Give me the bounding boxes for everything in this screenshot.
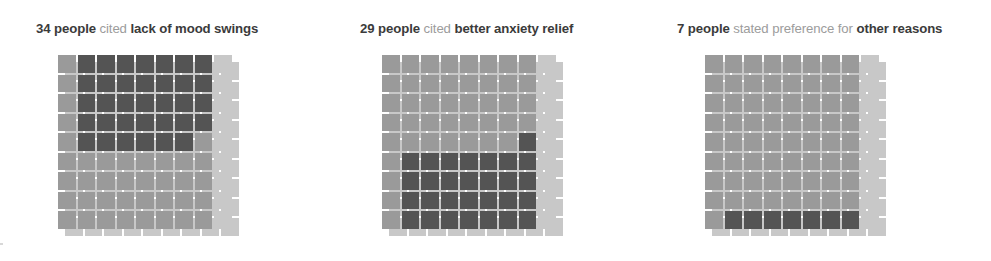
waffle-cell-base xyxy=(764,153,782,171)
waffle-cell-base xyxy=(156,192,174,210)
waffle-cell-base xyxy=(725,192,743,210)
waffle-cell-highlight xyxy=(519,211,537,229)
waffle-cell-base xyxy=(705,133,723,151)
waffle-cell-highlight xyxy=(156,94,174,112)
waffle-chart-figure: 34 people cited lack of mood swings29 pe… xyxy=(0,0,991,261)
waffle-cell-base xyxy=(97,172,115,190)
waffle-cell-highlight xyxy=(744,211,762,229)
waffle-cell-base xyxy=(195,172,213,190)
waffle-cell-highlight xyxy=(499,172,517,190)
waffle-cell-base xyxy=(460,94,478,112)
waffle-cell-base xyxy=(441,133,459,151)
waffle-cell-shadow xyxy=(861,153,879,171)
waffle-cell-shadow xyxy=(214,172,232,190)
waffle-cell-base xyxy=(382,114,400,132)
waffle-cell-base xyxy=(783,55,801,73)
panel-title-mood-swings: 34 people cited lack of mood swings xyxy=(36,21,258,37)
waffle-cell-base xyxy=(744,75,762,93)
waffle-cell-base xyxy=(480,114,498,132)
waffle-cell-highlight xyxy=(480,153,498,171)
panel-title-verb: stated preference for xyxy=(730,21,857,36)
waffle-cell-highlight xyxy=(441,172,459,190)
waffle-cell-base xyxy=(822,94,840,112)
waffle-cell-base xyxy=(195,153,213,171)
figure-edge-marker xyxy=(0,243,3,245)
waffle-cell-base xyxy=(764,133,782,151)
waffle-cell-base xyxy=(744,153,762,171)
waffle-grid-anxiety-relief xyxy=(382,55,556,229)
waffle-cell-base xyxy=(117,172,135,190)
waffle-cell-highlight xyxy=(783,211,801,229)
waffle-cell-base xyxy=(842,55,860,73)
waffle-cell-base xyxy=(705,94,723,112)
waffle-cell-base xyxy=(822,133,840,151)
waffle-cell-highlight xyxy=(842,211,860,229)
waffle-cell-highlight xyxy=(78,75,96,93)
waffle-cell-base xyxy=(78,172,96,190)
waffle-cell-highlight xyxy=(136,75,154,93)
waffle-cell-highlight xyxy=(175,94,193,112)
waffle-cell-base xyxy=(842,153,860,171)
waffle-cell-highlight xyxy=(519,172,537,190)
waffle-cell-base xyxy=(402,75,420,93)
waffle-cell-base xyxy=(744,55,762,73)
waffle-cell-base xyxy=(783,94,801,112)
panel-title-other-reasons: 7 people stated preference for other rea… xyxy=(677,21,942,37)
waffle-cell-highlight xyxy=(78,94,96,112)
waffle-cell-highlight xyxy=(421,153,439,171)
waffle-cell-base xyxy=(842,133,860,151)
waffle-cell-base xyxy=(460,133,478,151)
waffle-cell-base xyxy=(480,55,498,73)
waffle-cell-base xyxy=(499,75,517,93)
waffle-cell-base xyxy=(441,94,459,112)
waffle-cell-shadow xyxy=(861,211,879,229)
waffle-cell-highlight xyxy=(117,94,135,112)
waffle-cell-base xyxy=(725,153,743,171)
waffle-cell-highlight xyxy=(441,211,459,229)
waffle-cell-highlight xyxy=(421,192,439,210)
waffle-cell-highlight xyxy=(117,55,135,73)
waffle-cell-highlight xyxy=(519,192,537,210)
waffle-cell-highlight xyxy=(195,114,213,132)
waffle-cell-base xyxy=(725,55,743,73)
waffle-cell-base xyxy=(803,153,821,171)
waffle-cell-base xyxy=(97,211,115,229)
waffle-cell-base xyxy=(744,172,762,190)
panel-title-count: 34 people xyxy=(36,21,96,36)
waffle-cell-base xyxy=(705,211,723,229)
waffle-cell-shadow xyxy=(861,133,879,151)
waffle-grid-other-reasons xyxy=(705,55,879,229)
waffle-cell-shadow xyxy=(538,55,556,73)
waffle-cell-shadow xyxy=(861,114,879,132)
waffle-cell-shadow xyxy=(214,94,232,112)
waffle-cell-shadow xyxy=(538,192,556,210)
waffle-cell-base xyxy=(803,172,821,190)
waffle-cell-base xyxy=(421,94,439,112)
waffle-cell-base xyxy=(822,153,840,171)
waffle-cell-base xyxy=(783,172,801,190)
waffle-grid-mood-swings xyxy=(58,55,232,229)
waffle-cell-highlight xyxy=(499,211,517,229)
waffle-cell-shadow xyxy=(214,75,232,93)
waffle-main-layer xyxy=(58,55,232,229)
waffle-cell-highlight xyxy=(480,192,498,210)
waffle-cell-base xyxy=(822,172,840,190)
waffle-cell-base xyxy=(744,192,762,210)
waffle-cell-base xyxy=(519,55,537,73)
waffle-cell-base xyxy=(136,192,154,210)
waffle-cell-highlight xyxy=(402,172,420,190)
waffle-cell-highlight xyxy=(175,75,193,93)
waffle-cell-base xyxy=(382,75,400,93)
waffle-cell-highlight xyxy=(136,55,154,73)
waffle-cell-base xyxy=(117,211,135,229)
waffle-cell-base xyxy=(421,75,439,93)
waffle-cell-shadow xyxy=(538,133,556,151)
waffle-cell-highlight xyxy=(519,153,537,171)
waffle-cell-base xyxy=(822,55,840,73)
waffle-cell-base xyxy=(136,211,154,229)
waffle-cell-highlight xyxy=(136,94,154,112)
waffle-cell-shadow xyxy=(214,133,232,151)
waffle-cell-highlight xyxy=(822,211,840,229)
waffle-cell-base xyxy=(382,133,400,151)
waffle-cell-base xyxy=(705,153,723,171)
